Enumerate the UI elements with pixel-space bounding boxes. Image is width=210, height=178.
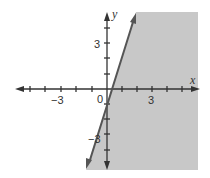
y-axis-up-arrow-icon (104, 12, 110, 21)
x-tick-label-neg3: −3 (51, 94, 64, 106)
y-tick-label-3: 3 (94, 38, 100, 50)
y-axis-label: y (111, 7, 118, 21)
origin-label: 0 (97, 93, 103, 105)
x-axis-label: x (189, 73, 196, 87)
boundary-line-top-arrow-icon (130, 13, 136, 24)
x-tick-label-3: 3 (148, 94, 154, 106)
shaded-region (86, 12, 198, 170)
y-tick-label-neg3: −3 (88, 133, 101, 145)
inequality-graph: y x 0 −3 3 3 −3 (0, 0, 210, 178)
x-axis-left-arrow-icon (15, 86, 24, 92)
